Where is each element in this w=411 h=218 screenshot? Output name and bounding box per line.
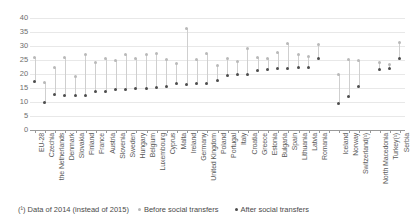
data-point-after xyxy=(63,94,66,97)
connector-line xyxy=(136,58,137,88)
data-point-group xyxy=(213,18,222,130)
x-axis-category-label: Latvia xyxy=(311,133,319,151)
data-point-before xyxy=(378,61,381,64)
connector-line xyxy=(75,76,76,95)
data-point-group xyxy=(152,18,161,130)
legend-item-before: Before social transfers xyxy=(138,205,219,214)
x-axis-category-label: Croatia xyxy=(251,133,259,155)
data-point-after xyxy=(155,86,158,89)
connector-line xyxy=(247,49,248,74)
data-point-after xyxy=(317,57,320,60)
data-point-group xyxy=(102,18,111,130)
data-point-before xyxy=(94,61,97,64)
x-axis-category-label: Malta xyxy=(180,133,188,149)
data-point-after xyxy=(276,67,279,70)
data-point-group xyxy=(142,18,151,130)
x-axis-category-label: Spain xyxy=(291,133,299,150)
data-point-before xyxy=(185,27,188,30)
data-point-after xyxy=(388,67,391,70)
x-axis-category-labels: EU-28Czechiathe NetherlandsDenmarkSlovak… xyxy=(30,133,405,195)
x-axis-category-label: France xyxy=(98,133,106,154)
data-point-after xyxy=(337,102,340,105)
data-point-after xyxy=(236,73,239,76)
data-point-after xyxy=(398,57,401,60)
data-point-group xyxy=(61,18,70,130)
connector-line xyxy=(116,60,117,90)
data-point-group xyxy=(223,18,232,130)
x-axis-category-label: the Netherlands xyxy=(58,133,66,180)
x-axis-category-label: Germany xyxy=(200,133,208,161)
data-point-after xyxy=(286,67,289,70)
x-axis-category-label: Serbia xyxy=(403,133,411,152)
data-point-before xyxy=(266,57,269,60)
data-point-after xyxy=(104,90,107,93)
data-point-group xyxy=(264,18,273,130)
data-point-before xyxy=(74,75,77,78)
x-axis-category-label: Portugal xyxy=(230,133,238,158)
connector-line xyxy=(65,58,66,96)
y-axis-tick-label: 25 xyxy=(8,56,28,64)
data-point-before xyxy=(84,53,87,56)
x-axis-category-label: Luxembourg xyxy=(159,133,167,170)
data-point-after xyxy=(226,74,229,77)
data-point-group xyxy=(112,18,121,130)
x-axis-category-label: Turkey(¹) xyxy=(392,133,400,160)
data-point-after xyxy=(124,88,127,91)
data-point-group xyxy=(41,18,50,130)
data-point-before xyxy=(33,56,36,59)
x-axis-category-label: Belgium xyxy=(149,133,157,157)
data-point-before xyxy=(256,56,259,59)
connector-line xyxy=(349,60,350,97)
after-dot-icon xyxy=(235,208,238,211)
y-axis-tick-label: 40 xyxy=(8,14,28,22)
connector-line xyxy=(278,52,279,68)
x-axis-category-label: Austria xyxy=(109,133,117,154)
data-point-before xyxy=(398,41,401,44)
data-point-after xyxy=(145,87,148,90)
data-point-before xyxy=(145,53,148,56)
connector-line xyxy=(359,61,360,86)
connector-line xyxy=(176,63,177,83)
data-point-group xyxy=(233,18,242,130)
data-point-group xyxy=(91,18,100,130)
x-axis-category-label: Czechia xyxy=(48,133,56,157)
x-axis-category-label: EU-28 xyxy=(38,133,46,152)
data-point-after xyxy=(246,73,249,76)
data-point-group xyxy=(172,18,181,130)
connector-line xyxy=(207,54,208,84)
data-point-group xyxy=(355,18,364,130)
data-point-before xyxy=(246,47,249,50)
x-axis-category-label: Denmark xyxy=(68,133,76,160)
data-point-after xyxy=(53,93,56,96)
x-axis-category-label: Romania xyxy=(321,133,329,160)
x-axis-category-label: Italy xyxy=(240,133,248,145)
data-point-after xyxy=(256,69,259,72)
data-point-before xyxy=(205,52,208,55)
x-axis-category-label: Cyprus xyxy=(169,133,177,154)
data-point-after xyxy=(74,94,77,97)
chart-container: 0510152025303540 EU-28Czechiathe Netherl… xyxy=(0,0,411,218)
x-axis-category-label: North Macedonia xyxy=(382,133,390,184)
connector-line xyxy=(187,28,188,84)
data-point-before xyxy=(134,57,137,60)
data-point-before xyxy=(155,52,158,55)
data-point-group xyxy=(304,18,313,130)
x-axis-category-label: Bulgaria xyxy=(281,133,289,157)
y-axis-tick-label: 30 xyxy=(8,42,28,50)
data-point-group xyxy=(335,18,344,130)
data-point-group xyxy=(284,18,293,130)
data-point-group xyxy=(385,18,394,130)
x-axis-category-label: Slovenia xyxy=(119,133,127,159)
legend-label-before: Before social transfers xyxy=(144,205,219,214)
data-point-after xyxy=(43,101,46,104)
data-point-group xyxy=(203,18,212,130)
data-point-group xyxy=(81,18,90,130)
data-point-after xyxy=(347,95,350,98)
data-point-group xyxy=(193,18,202,130)
connector-line xyxy=(156,54,157,87)
data-point-after xyxy=(33,80,36,83)
data-point-before xyxy=(226,57,229,60)
x-axis-category-label: Estonia xyxy=(271,133,279,155)
data-point-before xyxy=(195,58,198,61)
y-axis-tick-label: 20 xyxy=(8,70,28,78)
